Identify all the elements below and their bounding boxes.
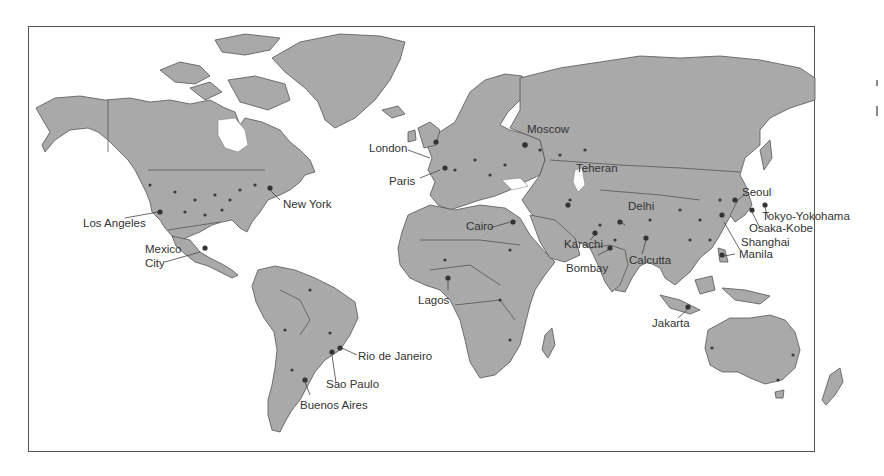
- label-moscow: Moscow: [527, 123, 569, 136]
- label-london: London: [369, 142, 407, 155]
- label-cairo: Cairo: [466, 220, 493, 233]
- label-teheran: Teheran: [576, 162, 618, 175]
- margin-mark: [876, 106, 878, 116]
- label-sao-paulo: Sao Paulo: [326, 378, 379, 391]
- label-new-york: New York: [283, 198, 332, 211]
- label-osaka-kobe: Osaka-Kobe: [749, 222, 813, 235]
- label-jakarta: Jakarta: [652, 317, 690, 330]
- label-karachi: Karachi: [564, 238, 603, 251]
- label-calcutta: Calcutta: [629, 254, 671, 267]
- north-america: [36, 96, 315, 240]
- label-manila: Manila: [739, 248, 773, 261]
- label-seoul: Seoul: [742, 186, 771, 199]
- label-lagos: Lagos: [418, 294, 449, 307]
- greenland: [272, 34, 405, 128]
- label-bombay: Bombay: [566, 262, 608, 275]
- label-buenos-aires: Buenos Aires: [300, 399, 368, 412]
- australia: [705, 315, 800, 384]
- label-delhi: Delhi: [628, 200, 654, 213]
- label-rio-de-janeiro: Rio de Janeiro: [358, 350, 432, 363]
- label-los-angeles: Los Angeles: [83, 217, 146, 230]
- margin-mark: [876, 80, 878, 86]
- label-mexico-city-line2: City: [145, 257, 165, 270]
- label-mexico-city-line1: Mexico: [145, 243, 181, 256]
- label-paris: Paris: [389, 175, 415, 188]
